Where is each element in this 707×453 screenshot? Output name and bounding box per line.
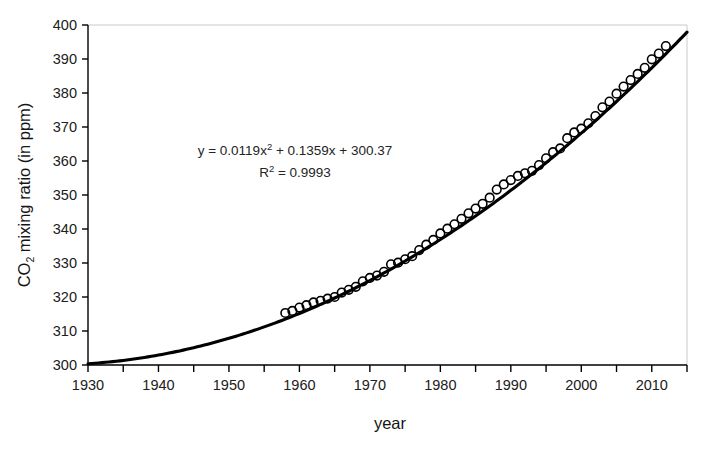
y-axis-tick-label: 300 <box>53 357 77 373</box>
x-axis: 193019401950196019701980199020002010 <box>72 365 687 393</box>
data-point-markers <box>281 42 670 318</box>
x-axis-title: year <box>374 414 407 432</box>
data-point <box>655 49 664 58</box>
x-axis-tick-label: 1980 <box>424 377 456 393</box>
y-axis-tick-label: 400 <box>53 17 77 33</box>
y-axis-tick-label: 360 <box>53 153 77 169</box>
data-point <box>485 193 494 202</box>
x-axis-tick-label: 1960 <box>283 377 315 393</box>
y-axis-tick-label: 340 <box>53 221 77 237</box>
plot-frame <box>88 25 687 365</box>
regression-annotation: y = 0.0119x2 + 0.1359x + 300.37 R2 = 0.9… <box>198 141 393 180</box>
y-axis-tick-label: 350 <box>53 187 77 203</box>
y-axis-tick-labels: 300310320330340350360370380390400 <box>53 17 77 373</box>
x-axis-tick-label: 1950 <box>213 377 245 393</box>
y-axis-tick-label: 370 <box>53 119 77 135</box>
x-axis-tick-label: 1970 <box>354 377 386 393</box>
y-axis-tick-label: 380 <box>53 85 77 101</box>
co2-scatter-chart: 300310320330340350360370380390400 193019… <box>0 0 707 453</box>
y-axis-title-pre: CO <box>15 262 33 287</box>
svg-text:CO2 mixing ratio (in ppm): CO2 mixing ratio (in ppm) <box>15 103 36 288</box>
y-axis-title: CO2 mixing ratio (in ppm) <box>15 103 36 288</box>
x-axis-tick-labels: 193019401950196019701980199020002010 <box>72 377 668 393</box>
x-axis-tick-label: 2000 <box>565 377 597 393</box>
equation-text: y = 0.0119x2 + 0.1359x + 300.37 <box>198 141 393 158</box>
y-axis: 300310320330340350360370380390400 <box>53 17 88 373</box>
r-squared-post: = 0.9993 <box>274 165 331 180</box>
y-axis-ticks <box>82 25 88 365</box>
trend-line <box>88 32 687 364</box>
r-squared-text: R2 = 0.9993 <box>259 163 331 180</box>
data-point <box>612 89 621 98</box>
data-point <box>619 82 628 91</box>
r-squared-pre: R <box>259 165 269 180</box>
x-axis-ticks <box>88 365 687 372</box>
equation-pre: y = 0.0119x <box>198 143 267 158</box>
x-axis-tick-label: 1940 <box>142 377 174 393</box>
data-point <box>662 42 671 51</box>
x-axis-tick-label: 1990 <box>495 377 527 393</box>
chart-figure: 300310320330340350360370380390400 193019… <box>0 0 707 453</box>
y-axis-title-post: mixing ratio (in ppm) <box>15 103 33 257</box>
equation-post: + 0.1359x + 300.37 <box>272 143 392 158</box>
data-point <box>605 97 614 106</box>
y-axis-tick-label: 330 <box>53 255 77 271</box>
x-axis-tick-label: 2010 <box>636 377 668 393</box>
data-point <box>640 64 649 73</box>
y-axis-tick-label: 310 <box>53 323 77 339</box>
y-axis-tick-label: 390 <box>53 51 77 67</box>
x-axis-tick-label: 1930 <box>72 377 104 393</box>
y-axis-tick-label: 320 <box>53 289 77 305</box>
